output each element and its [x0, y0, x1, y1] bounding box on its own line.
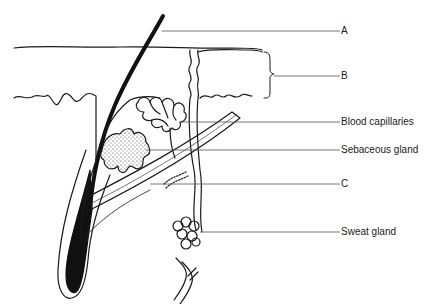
- epidermis-boundary-right: [200, 94, 252, 98]
- label-B: B: [341, 70, 348, 82]
- label-sebaceous-gland: Sebaceous gland: [341, 144, 418, 156]
- label-A: A: [341, 25, 348, 37]
- sweat-duct: [189, 50, 196, 230]
- sebaceous-gland: [101, 129, 150, 173]
- hair-shaft: [90, 16, 163, 210]
- sweat-duct-inner: [197, 50, 202, 232]
- sweat-gland-coil: [173, 217, 200, 249]
- brace-B: [264, 52, 274, 98]
- label-blood-capillaries: Blood capillaries: [341, 116, 414, 128]
- label-sweat-gland: Sweat gland: [341, 226, 396, 238]
- label-C: C: [341, 178, 348, 190]
- epidermis-boundary-left: [14, 93, 96, 160]
- dermal-papilla: [198, 50, 262, 53]
